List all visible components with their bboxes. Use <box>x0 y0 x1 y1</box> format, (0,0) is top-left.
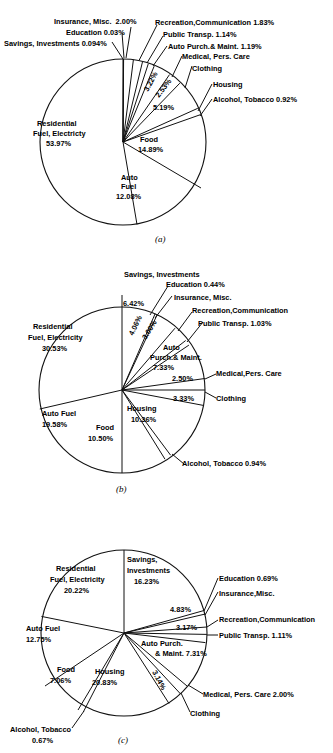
label-food-a: Food <box>140 135 159 144</box>
label-housing-pct-c: 20.83% <box>92 678 117 687</box>
label-residential-b2: Fuel, Electricity <box>28 333 84 342</box>
label-food-pct-b: 10.50% <box>88 434 113 443</box>
label-clothing-pct-b: 3.33% <box>173 394 194 403</box>
label-housing-pct-b: 10.36% <box>131 415 156 424</box>
label-alcohol-c1: Alcohol, Tobacco <box>10 725 72 734</box>
label-insurance-c: Insurance,Misc. <box>219 589 274 598</box>
pie-chart-b: Savings, Investments Education 0.44% Ins… <box>0 250 333 500</box>
label-savings-pct-c: 16.23% <box>134 577 159 586</box>
label-auto-fuel-pct-c: 12.75% <box>26 635 51 644</box>
label-medical-pct-b: 2.50% <box>172 374 193 383</box>
label-food-c: Food <box>57 665 76 674</box>
label-savings-c2: Investments <box>127 566 170 575</box>
label-auto-fuel-c: Auto Fuel <box>26 624 60 633</box>
label-housing-b: Housing <box>127 404 157 413</box>
label-auto-purch-c1: Auto Purch. <box>141 639 183 648</box>
figure-caption-a: (a) <box>155 234 166 244</box>
label-auto-fuel-a1: Auto <box>121 173 138 182</box>
label-education-a: Education 0.03% <box>66 28 125 37</box>
label-recreation-c: Recreation,Communication <box>219 615 316 624</box>
label-recreation-pct-c: 3.17% <box>176 623 197 632</box>
label-residential-b1: Residential <box>33 322 72 331</box>
label-residential-pct-a: 53.97% <box>46 139 71 148</box>
figure-caption-b: (b) <box>116 484 127 494</box>
label-food-b: Food <box>96 423 115 432</box>
label-auto-fuel-b: Auto Fuel <box>42 409 76 418</box>
label-residential-c1: Residential <box>56 564 95 573</box>
label-housing-pct-a: 5.19% <box>153 103 174 112</box>
label-clothing-a: Clothing <box>192 64 222 73</box>
label-residential-pct-b: 30.53% <box>42 344 67 353</box>
label-auto-purch-b1: Auto <box>163 343 180 352</box>
label-insurance-a: Insurance, Misc. 2.00% <box>54 17 137 26</box>
figure-caption-c: (c) <box>118 735 128 745</box>
label-clothing-c: Clothing <box>190 709 220 718</box>
label-residential-a1: Residential <box>37 119 76 128</box>
label-medical-a: Medical, Pers. Care <box>182 52 250 61</box>
label-alcohol-pct-c: 0.67% <box>32 736 53 745</box>
pie-chart-b-svg: Savings, Investments Education 0.44% Ins… <box>0 250 333 500</box>
pie-chart-a: Insurance, Misc. 2.00% Education 0.03% S… <box>0 0 333 250</box>
label-education-c: Education 0.69% <box>219 574 278 583</box>
label-public-transp-a: Public Transp. 1.14% <box>163 30 237 39</box>
pie-chart-c-svg: Savings, Investments 16.23% Education 0.… <box>0 500 333 753</box>
label-auto-fuel-pct-a: 12.08% <box>116 192 141 201</box>
label-recreation-a: Recreation,Communication 1.83% <box>155 18 275 27</box>
label-clothing-b: Clothing <box>216 394 246 403</box>
label-auto-fuel-pct-b: 19.58% <box>42 420 67 429</box>
label-food-pct-a: 14.89% <box>138 145 163 154</box>
label-medical-b: Medical,Pers. Care <box>216 369 282 378</box>
label-education-b: Education 0.44% <box>166 280 225 289</box>
label-residential-pct-c: 20.22% <box>64 586 89 595</box>
label-auto-purch-a: Auto Purch.& Maint. 1.19% <box>168 42 262 51</box>
label-insurance-b: Insurance, Misc. <box>174 293 232 302</box>
label-public-transp-c: Public Transp. 1.11% <box>219 631 293 640</box>
label-auto-purch-pct-b: 7.33% <box>153 363 174 372</box>
label-alcohol-a: Alcohol, Tobacco 0.92% <box>213 95 297 104</box>
label-savings-b: Savings, Investments <box>124 270 200 279</box>
label-auto-purch-c2: & Maint. 7.31% <box>155 649 207 658</box>
label-food-pct-c: 7.06% <box>50 676 71 685</box>
label-recreation-b: Recreation,Communication <box>192 306 289 315</box>
label-housing-a: Housing <box>213 80 243 89</box>
label-savings-a: Savings, Investments 0.094% <box>4 39 107 48</box>
label-residential-c2: Fuel, Electricity <box>50 575 106 584</box>
label-alcohol-b: Alcohol, Tobacco 0.94% <box>182 459 266 468</box>
label-housing-c: Housing <box>95 667 125 676</box>
label-residential-a2: Fuel, Electricty <box>33 129 86 138</box>
label-savings-pct-b: 6.42% <box>123 299 144 308</box>
pie-chart-c: Savings, Investments 16.23% Education 0.… <box>0 500 333 753</box>
label-insurance-pct-c: 4.83% <box>170 605 191 614</box>
label-auto-fuel-a2: Fuel <box>121 182 136 191</box>
label-public-transp-b: Public Transp. 1.03% <box>198 319 272 328</box>
label-auto-purch-b2: Purch.& Maint. <box>150 353 202 362</box>
pie-chart-a-svg: Insurance, Misc. 2.00% Education 0.03% S… <box>0 0 333 250</box>
label-savings-c1: Savings, <box>127 555 157 564</box>
label-medical-c: Medical, Pers. Care 2.00% <box>203 690 294 699</box>
